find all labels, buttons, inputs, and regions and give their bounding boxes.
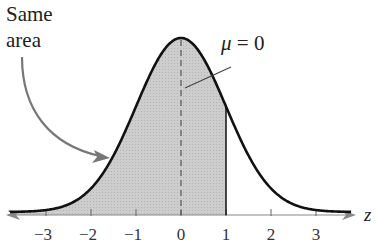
z-axis-label: z	[364, 205, 371, 224]
same-area-label-line1: Same	[6, 4, 53, 25]
tick-label: 1	[222, 226, 231, 243]
mu-label: μ = 0	[221, 33, 264, 54]
tick-label: 2	[267, 226, 276, 243]
tick-label: −1	[124, 226, 142, 243]
tick-label: 3	[312, 226, 321, 243]
tick-label: −3	[34, 226, 52, 243]
shaded-area	[10, 38, 226, 215]
tick-label: −2	[79, 226, 97, 243]
normal-curve-chart	[0, 0, 378, 246]
tick-label: 0	[177, 226, 186, 243]
mu-equals: = 0	[232, 31, 265, 55]
mu-symbol: μ	[221, 31, 232, 55]
same-area-label-line2: area	[6, 30, 41, 51]
z-variable: z	[364, 204, 371, 225]
